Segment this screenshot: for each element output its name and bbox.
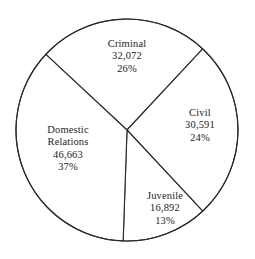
- slice-label-civil: Civil 30,591 24%: [158, 107, 242, 144]
- slice-label-criminal: Criminal 32,072 26%: [73, 38, 181, 75]
- slice-label-juvenile-name: Juvenile: [123, 190, 207, 202]
- slice-label-civil-name: Civil: [158, 107, 242, 119]
- slice-label-civil-value: 30,591: [158, 119, 242, 131]
- slice-label-juvenile: Juvenile 16,892 13%: [123, 190, 207, 227]
- slice-label-juvenile-value: 16,892: [123, 202, 207, 214]
- slice-label-domestic-relations-name-line1: Domestic: [16, 124, 120, 136]
- slice-label-criminal-value: 32,072: [73, 50, 181, 62]
- slice-label-criminal-percent: 26%: [73, 63, 181, 75]
- slice-label-domestic-relations-value: 46,663: [16, 149, 120, 161]
- slice-label-civil-percent: 24%: [158, 132, 242, 144]
- slice-label-domestic-relations-name-line2: Relations: [16, 136, 120, 148]
- slice-label-criminal-name: Criminal: [73, 38, 181, 50]
- slice-label-domestic-relations-percent: 37%: [16, 161, 120, 173]
- slice-label-domestic-relations: Domestic Relations 46,663 37%: [16, 124, 120, 174]
- slice-label-juvenile-percent: 13%: [123, 215, 207, 227]
- pie-chart: Criminal 32,072 26% Civil 30,591 24% Dom…: [0, 0, 255, 259]
